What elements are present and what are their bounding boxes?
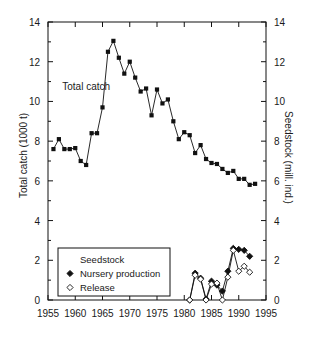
data-point-square	[253, 182, 257, 186]
data-point-square	[95, 131, 99, 135]
legend-label-nursery-production: Nursery production	[80, 268, 160, 279]
data-point-square	[166, 97, 170, 101]
y-tick-label-left: 6	[34, 176, 40, 187]
x-tick-label: 1965	[91, 308, 114, 319]
data-point-square	[242, 177, 246, 181]
data-point-square	[220, 167, 224, 171]
y-tick-label-right: 4	[274, 216, 280, 227]
data-point-square	[149, 113, 153, 117]
annotation-total-catch: Total catch	[62, 81, 110, 92]
data-point-square	[90, 131, 94, 135]
data-point-filled-diamond	[225, 268, 231, 274]
y-tick-label-left: 10	[29, 96, 41, 107]
legend-label-release: Release	[80, 282, 115, 293]
data-point-square	[177, 137, 181, 141]
y-tick-label-right: 8	[274, 136, 280, 147]
y-tick-label-left: 12	[29, 57, 41, 68]
data-point-square	[111, 39, 115, 43]
y-tick-label-right: 14	[274, 17, 286, 28]
legend-title: Seedstock	[80, 254, 125, 265]
x-tick-label: 1995	[255, 308, 278, 319]
y-tick-label-right: 12	[274, 57, 286, 68]
data-point-square	[231, 169, 235, 173]
series-line-total-catch	[53, 41, 255, 185]
data-point-square	[117, 56, 121, 60]
x-tick-label: 1975	[146, 308, 169, 319]
data-point-square	[73, 146, 77, 150]
data-point-square	[171, 119, 175, 123]
data-point-square	[144, 86, 148, 90]
x-tick-label: 1990	[228, 308, 251, 319]
data-point-square	[215, 162, 219, 166]
data-point-square	[226, 171, 230, 175]
y-tick-label-left: 0	[34, 295, 40, 306]
data-point-open-diamond	[187, 297, 193, 303]
data-point-square	[139, 89, 143, 93]
x-tick-label: 1985	[200, 308, 223, 319]
x-tick-label: 1980	[173, 308, 196, 319]
y-tick-label-left: 2	[34, 255, 40, 266]
y-tick-label-right: 6	[274, 176, 280, 187]
data-point-square	[199, 143, 203, 147]
data-point-square	[68, 147, 72, 151]
data-point-square	[160, 101, 164, 105]
x-tick-label: 1970	[119, 308, 142, 319]
data-point-square	[57, 137, 61, 141]
y-tick-label-right: 10	[274, 96, 286, 107]
data-point-square	[100, 105, 104, 109]
data-point-square	[182, 130, 186, 134]
data-point-square	[62, 147, 66, 151]
data-point-square	[106, 50, 110, 54]
data-point-square	[133, 76, 137, 80]
x-tick-label: 1955	[37, 308, 60, 319]
chart-figure: Total catch (1000 t) Seedstock (mill. in…	[0, 0, 311, 340]
data-point-square	[209, 161, 213, 165]
data-point-square	[237, 177, 241, 181]
plot-area: 1955196019651970197519801985199019950246…	[0, 0, 311, 340]
y-tick-label-left: 8	[34, 136, 40, 147]
data-point-square	[204, 157, 208, 161]
y-tick-label-left: 4	[34, 216, 40, 227]
data-point-open-diamond	[219, 297, 225, 303]
x-tick-label: 1960	[64, 308, 87, 319]
data-point-square	[188, 133, 192, 137]
data-point-square	[84, 163, 88, 167]
data-point-square	[128, 60, 132, 64]
data-point-square	[51, 147, 55, 151]
data-point-square	[248, 183, 252, 187]
data-point-filled-diamond	[236, 246, 242, 252]
data-point-square	[79, 159, 83, 163]
data-point-square	[193, 151, 197, 155]
data-point-square	[155, 87, 159, 91]
y-tick-label-right: 0	[274, 295, 280, 306]
y-tick-label-left: 14	[29, 17, 41, 28]
data-point-square	[122, 72, 126, 76]
y-tick-label-right: 2	[274, 255, 280, 266]
